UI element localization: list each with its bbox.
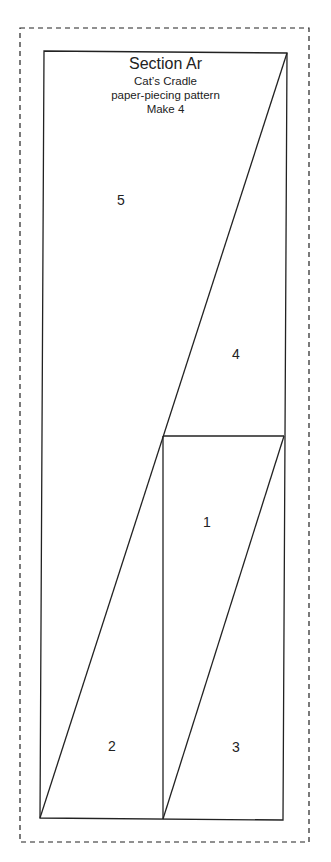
piece-label-1: 1: [203, 514, 211, 530]
make-count: Make 4: [44, 102, 287, 116]
piece-label-4: 4: [232, 346, 240, 362]
pattern-name: Cat’s Cradle: [44, 74, 287, 88]
piece-label-3: 3: [232, 739, 240, 755]
pattern-drawing: [0, 0, 331, 862]
title-block: Section Ar Cat’s Cradle paper-piecing pa…: [44, 54, 287, 116]
seam-allowance-outline: [20, 28, 309, 842]
seam-line-inner-diagonal: [163, 436, 284, 819]
pattern-type: paper-piecing pattern: [44, 88, 287, 102]
piece-label-2: 2: [108, 738, 116, 754]
section-title: Section Ar: [44, 54, 287, 74]
piece-label-5: 5: [117, 192, 125, 208]
